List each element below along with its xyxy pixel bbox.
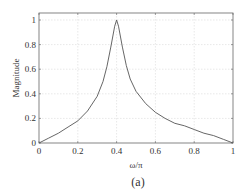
magnitude-chart: 00.20.40.60.81 00.20.40.60.81 ω/π Magnit…: [0, 0, 250, 192]
y-tick-label: 0.2: [25, 113, 36, 123]
x-tick-label: 0.8: [189, 146, 201, 156]
x-axis-label: ω/π: [130, 160, 143, 170]
figure-caption: (a): [131, 175, 144, 189]
x-tick-label: 0.6: [150, 146, 162, 156]
x-tick-label: 1: [231, 146, 236, 156]
y-axis-label: Magnitude: [11, 59, 21, 98]
y-axis-ticks: 00.20.40.60.81: [25, 15, 233, 148]
y-tick-label: 0: [32, 138, 37, 148]
grid-lines: [39, 13, 233, 143]
y-tick-label: 0.6: [25, 64, 37, 74]
x-tick-label: 0: [37, 146, 42, 156]
y-tick-label: 0.8: [25, 40, 37, 50]
magnitude-curve: [39, 20, 233, 143]
x-tick-label: 0.4: [111, 146, 123, 156]
x-axis-ticks: 00.20.40.60.81: [37, 13, 236, 156]
y-tick-label: 0.4: [25, 89, 37, 99]
plot-frame: [39, 13, 233, 143]
y-tick-label: 1: [32, 15, 37, 25]
x-tick-label: 0.2: [72, 146, 83, 156]
